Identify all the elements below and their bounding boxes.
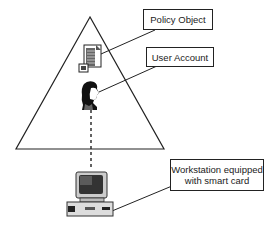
workstation-label: Workstation equipped with smart card (170, 159, 264, 191)
user-connector (99, 66, 157, 92)
policy-object-label: Policy Object (143, 9, 213, 30)
user-head-icon (82, 81, 99, 110)
policy-object-text: Policy Object (150, 14, 205, 25)
workstation-text-line2: with smart card (185, 175, 249, 186)
user-account-text: User Account (152, 52, 209, 63)
user-account-label: User Account (146, 47, 214, 67)
diagram-canvas (0, 0, 277, 229)
computer-icon (67, 172, 113, 216)
document-icon (79, 45, 101, 72)
workstation-text-line1: Workstation equipped (171, 164, 263, 175)
workstation-connector (112, 186, 172, 211)
